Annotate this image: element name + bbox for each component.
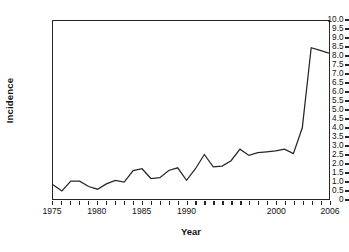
x-axis-tick-mark [204,201,205,205]
y-axis-tick-label: 4.5 [332,115,343,123]
x-axis-tick-mark [294,201,295,205]
y-axis-tick-mark [345,82,349,83]
x-axis-tick-mark [52,201,53,205]
y-axis-tick-mark [345,163,349,164]
y-axis-title-label: Incidence [5,77,16,123]
x-axis-tick-mark [169,201,170,205]
x-axis-tick-mark [195,201,196,205]
x-axis-tick-mark [151,201,152,205]
y-axis-tick-label: 6.5 [332,79,343,87]
y-axis-tick-label: 3.5 [332,133,343,141]
y-axis-tick-label: 4.0 [332,124,343,132]
x-axis-tick-mark [88,201,89,205]
x-axis-tick-mark [222,201,223,205]
y-axis-tick-mark [345,190,349,191]
x-axis-tick-mark [213,201,214,205]
x-axis-tick-mark [303,201,304,205]
x-axis-tick-mark [178,201,179,205]
x-axis-tick-mark [115,201,116,205]
y-axis-tick-mark [345,73,349,74]
y-axis-tick-label: 3.0 [332,142,343,150]
x-axis-tick-mark [160,201,161,205]
x-axis-tick-label: 1975 [32,207,72,216]
y-axis-tick-label: 7.5 [332,61,343,69]
y-axis-tick-mark [345,55,349,56]
y-axis-tick-label: 0.5 [332,187,343,195]
x-axis-tick-mark [106,201,107,205]
caption-sliver [0,245,349,252]
y-axis-title: Incidence [0,0,20,200]
y-axis-tick-label: 1.0 [332,178,343,186]
x-axis-tick-mark [276,201,277,205]
y-axis-tick-mark [345,64,349,65]
y-axis-tick-mark [345,19,349,20]
y-axis-tick-mark [345,145,349,146]
y-axis-tick-label: 2.0 [332,160,343,168]
x-axis-tick-mark [240,201,241,205]
x-axis-tick-mark [321,201,322,205]
y-axis-tick-label: 2.5 [332,151,343,159]
x-axis-tick-mark [124,201,125,205]
y-axis-tick-label: 5.5 [332,97,343,105]
x-axis-tick-mark [97,201,98,205]
x-axis-tick-mark [70,201,71,205]
x-axis-tick-mark [330,201,331,205]
x-axis-tick-mark [267,201,268,205]
x-axis-tick-mark [133,201,134,205]
y-axis-tick-label: 0 [339,196,344,204]
x-axis-tick-label: 2006 [310,207,349,216]
x-axis-tick-mark [249,201,250,205]
y-axis-tick-mark [345,127,349,128]
y-axis-tick-label: 8.0 [332,52,343,60]
x-axis-tick-label: 2000 [256,207,296,216]
incidence-series-line [53,21,329,199]
y-axis-tick-mark [345,181,349,182]
y-axis-tick-mark [345,136,349,137]
y-axis-tick-label: 7.0 [332,70,343,78]
x-axis-tick-mark [231,201,232,205]
x-axis-tick-mark [285,201,286,205]
y-axis-tick-mark [345,46,349,47]
y-axis-tick-mark [345,118,349,119]
x-axis-tick-label: 1980 [77,207,117,216]
y-axis-tick-mark [345,154,349,155]
x-axis-tick-mark [79,201,80,205]
x-axis-tick-mark [61,201,62,205]
y-axis-tick-label: 5.0 [332,106,343,114]
incidence-line-chart-figure: Incidence 10.09.59.08.58.07.57.06.56.05.… [0,0,349,252]
x-axis-tick-mark [187,201,188,205]
y-axis-tick-mark [345,28,349,29]
y-axis-tick-label: 9.0 [332,34,343,42]
y-axis-tick-label: 8.5 [332,43,343,51]
x-axis-title: Year [52,226,330,237]
y-axis-tick-mark [345,199,349,200]
x-axis-tick-label: 1985 [122,207,162,216]
x-axis-tick-mark [258,201,259,205]
plot-area [52,20,330,200]
y-axis-tick-label: 1.5 [332,169,343,177]
y-axis-tick-label: 9.5 [332,25,343,33]
y-axis-tick-mark [345,37,349,38]
y-axis-tick-mark [345,91,349,92]
y-axis-tick-label: 6.0 [332,88,343,96]
y-axis-tick-mark [345,172,349,173]
x-axis-tick-label: 1990 [167,207,207,216]
x-axis-title-label: Year [181,226,201,237]
y-axis-tick-mark [345,100,349,101]
y-axis-tick-mark [345,109,349,110]
x-axis-tick-mark [312,201,313,205]
x-axis-tick-mark [142,201,143,205]
